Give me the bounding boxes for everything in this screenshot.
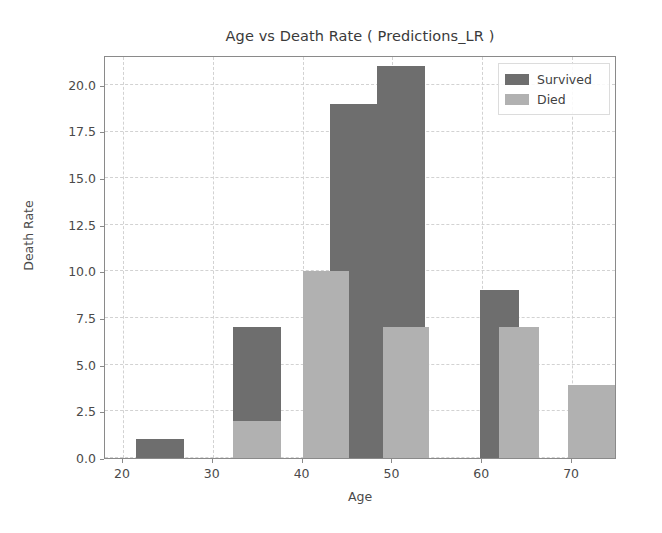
x-tick-label: 60 [461,466,501,481]
y-tick-mark [100,226,104,227]
x-tick-label: 40 [282,466,322,481]
y-tick-mark [100,366,104,367]
chart-legend: Survived Died [498,63,610,115]
bar-died [568,385,616,458]
y-tick-label: 12.5 [68,218,96,233]
x-tick-mark [481,459,482,463]
legend-item-survived: Survived [505,69,603,89]
y-tick-mark [100,319,104,320]
x-tick-mark [212,459,213,463]
legend-swatch-died [505,94,529,105]
y-tick-label: 2.5 [76,404,96,419]
y-tick-label: 7.5 [76,311,96,326]
bar-died [383,327,430,458]
y-tick-mark [100,412,104,413]
y-tick-label: 20.0 [68,78,96,93]
y-tick-label: 0.0 [76,451,96,466]
gridline-vertical [123,57,124,458]
matplotlib-figure: Age vs Death Rate ( Predictions_LR ) 0.0… [0,0,662,533]
x-tick-label: 70 [551,466,591,481]
legend-label-survived: Survived [537,72,592,87]
y-tick-label: 5.0 [76,358,96,373]
y-tick-mark [100,86,104,87]
legend-item-died: Died [505,89,603,109]
chart-title: Age vs Death Rate ( Predictions_LR ) [104,28,616,44]
bar-died [303,271,350,458]
y-tick-label: 15.0 [68,171,96,186]
y-axis-label: Death Rate [21,176,36,296]
x-tick-mark [391,459,392,463]
bar-died [499,327,539,458]
x-tick-label: 50 [371,466,411,481]
y-tick-mark [100,132,104,133]
x-tick-mark [302,459,303,463]
x-tick-label: 30 [192,466,232,481]
gridline-vertical [213,57,214,458]
y-tick-mark [100,459,104,460]
x-tick-label: 20 [102,466,142,481]
x-tick-mark [571,459,572,463]
y-tick-mark [100,179,104,180]
bar-died [233,421,282,458]
x-axis-label: Age [104,489,616,504]
legend-swatch-survived [505,74,529,85]
x-tick-mark [122,459,123,463]
bar-survived [136,439,184,458]
plot-area [104,56,616,459]
legend-label-died: Died [537,92,566,107]
y-tick-label: 17.5 [68,124,96,139]
y-tick-mark [100,272,104,273]
y-tick-label: 10.0 [68,264,96,279]
